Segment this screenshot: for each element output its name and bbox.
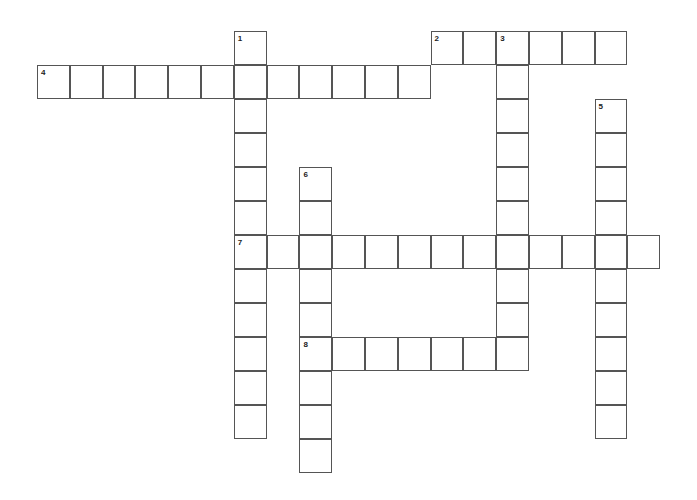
- crossword-cell[interactable]: [299, 201, 332, 235]
- crossword-cell[interactable]: [595, 235, 628, 269]
- crossword-cell[interactable]: [627, 235, 660, 269]
- crossword-cell[interactable]: [201, 65, 234, 99]
- crossword-cell[interactable]: [332, 337, 365, 371]
- crossword-cell[interactable]: [398, 337, 431, 371]
- crossword-cell[interactable]: [103, 65, 136, 99]
- crossword-cell[interactable]: 4: [37, 65, 70, 99]
- crossword-cell[interactable]: [562, 31, 595, 65]
- crossword-cell[interactable]: [529, 235, 562, 269]
- crossword-cell[interactable]: [332, 235, 365, 269]
- crossword-cell[interactable]: [299, 405, 332, 439]
- crossword-cell[interactable]: [595, 269, 628, 303]
- crossword-cell[interactable]: [234, 133, 267, 167]
- crossword-cell[interactable]: [365, 65, 398, 99]
- crossword-cell[interactable]: [299, 269, 332, 303]
- crossword-cell[interactable]: 3: [496, 31, 529, 65]
- crossword-cell[interactable]: [267, 235, 300, 269]
- crossword-cell[interactable]: [595, 405, 628, 439]
- crossword-cell[interactable]: [135, 65, 168, 99]
- crossword-cell[interactable]: 8: [299, 337, 332, 371]
- crossword-cell[interactable]: [365, 337, 398, 371]
- crossword-cell[interactable]: [496, 99, 529, 133]
- crossword-cell[interactable]: [529, 31, 562, 65]
- crossword-cell[interactable]: [562, 235, 595, 269]
- crossword-cell[interactable]: [234, 405, 267, 439]
- clue-number: 5: [599, 102, 603, 111]
- crossword-cell[interactable]: [496, 201, 529, 235]
- crossword-grid: 17234568: [0, 0, 697, 500]
- crossword-cell[interactable]: [595, 303, 628, 337]
- crossword-cell[interactable]: [595, 337, 628, 371]
- crossword-cell[interactable]: 6: [299, 167, 332, 201]
- crossword-cell[interactable]: [234, 201, 267, 235]
- crossword-cell[interactable]: [496, 337, 529, 371]
- crossword-cell[interactable]: [496, 269, 529, 303]
- crossword-cell[interactable]: [463, 235, 496, 269]
- crossword-cell[interactable]: [431, 235, 464, 269]
- crossword-cell[interactable]: [299, 235, 332, 269]
- clue-number: 2: [435, 34, 439, 43]
- crossword-cell[interactable]: [496, 235, 529, 269]
- crossword-cell[interactable]: [234, 167, 267, 201]
- crossword-cell[interactable]: [365, 235, 398, 269]
- crossword-cell[interactable]: [299, 303, 332, 337]
- crossword-cell[interactable]: [267, 65, 300, 99]
- crossword-cell[interactable]: [595, 371, 628, 405]
- crossword-cell[interactable]: [595, 133, 628, 167]
- crossword-cell[interactable]: 7: [234, 235, 267, 269]
- crossword-cell[interactable]: [234, 65, 267, 99]
- crossword-cell[interactable]: 5: [595, 99, 628, 133]
- crossword-cell[interactable]: [595, 201, 628, 235]
- crossword-cell[interactable]: [463, 31, 496, 65]
- clue-number: 4: [41, 68, 45, 77]
- crossword-cell[interactable]: [595, 167, 628, 201]
- clue-number: 3: [500, 34, 504, 43]
- crossword-cell[interactable]: [299, 371, 332, 405]
- crossword-cell[interactable]: [299, 65, 332, 99]
- crossword-cell[interactable]: [70, 65, 103, 99]
- crossword-cell[interactable]: [595, 31, 628, 65]
- crossword-cell[interactable]: [299, 439, 332, 473]
- clue-number: 6: [303, 170, 307, 179]
- clue-number: 1: [238, 34, 242, 43]
- crossword-cell[interactable]: 1: [234, 31, 267, 65]
- crossword-cell[interactable]: 2: [431, 31, 464, 65]
- crossword-cell[interactable]: [168, 65, 201, 99]
- crossword-cell[interactable]: [234, 269, 267, 303]
- crossword-cell[interactable]: [496, 65, 529, 99]
- crossword-cell[interactable]: [463, 337, 496, 371]
- crossword-cell[interactable]: [234, 337, 267, 371]
- clue-number: 7: [238, 238, 242, 247]
- crossword-cell[interactable]: [496, 303, 529, 337]
- crossword-cell[interactable]: [398, 235, 431, 269]
- crossword-cell[interactable]: [234, 371, 267, 405]
- crossword-cell[interactable]: [234, 303, 267, 337]
- crossword-cell[interactable]: [431, 337, 464, 371]
- crossword-cell[interactable]: [496, 167, 529, 201]
- crossword-cell[interactable]: [398, 65, 431, 99]
- clue-number: 8: [303, 340, 307, 349]
- crossword-cell[interactable]: [234, 99, 267, 133]
- crossword-cell[interactable]: [496, 133, 529, 167]
- crossword-cell[interactable]: [332, 65, 365, 99]
